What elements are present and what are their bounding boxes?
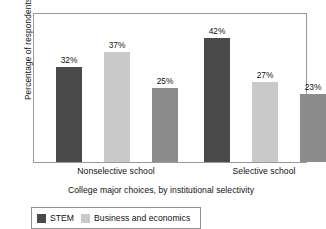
bar: 25% <box>152 88 178 162</box>
bar-value-label: 25% <box>157 76 173 86</box>
bar: 27% <box>252 82 278 162</box>
bar: 32% <box>56 67 82 162</box>
x-axis-category-label-0: Nonselective school <box>56 166 176 176</box>
legend-label: STEM <box>50 213 74 223</box>
bar: 42% <box>204 38 230 162</box>
plot-area: 32%37%25%42%27%23% <box>33 13 307 163</box>
bar-value-label: 32% <box>61 55 77 65</box>
bars-container: 32%37%25%42%27%23% <box>34 14 306 162</box>
bar: 37% <box>104 52 130 162</box>
legend-entry: STEM <box>37 213 74 223</box>
legend-swatch-icon <box>81 214 90 223</box>
legend-entry: Business and economics <box>81 213 190 223</box>
bar-value-label: 37% <box>109 40 125 50</box>
bar-value-label: 23% <box>305 82 321 92</box>
legend-swatch-icon <box>37 214 46 223</box>
chart-legend: STEMBusiness and economics <box>31 207 201 229</box>
legend-label: Business and economics <box>94 213 190 223</box>
bar: 23% <box>300 94 326 162</box>
x-axis-title: College major choices, by institutional … <box>0 185 322 195</box>
bar-value-label: 27% <box>257 70 273 80</box>
bar-value-label: 42% <box>209 26 225 36</box>
x-axis-category-label-1: Selective school <box>204 166 324 176</box>
